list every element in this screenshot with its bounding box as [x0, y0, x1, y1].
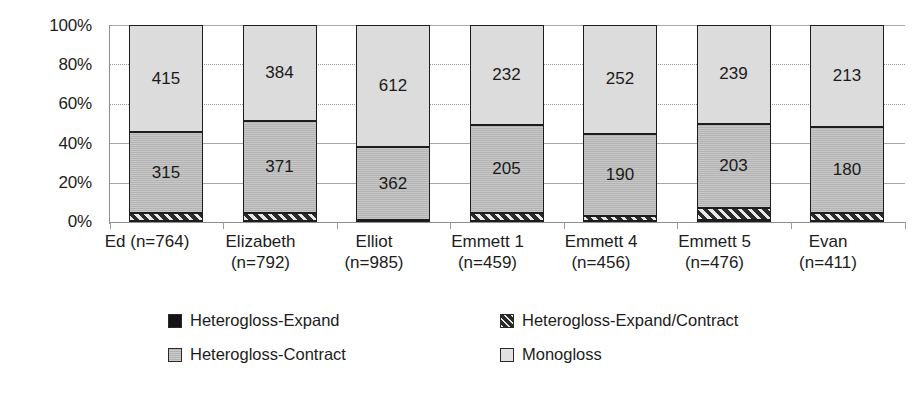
x-axis-category-label: Elizabeth(n=792) — [204, 231, 317, 273]
segment-monogloss: 239 — [697, 25, 771, 124]
x-axis-category-label: Ed (n=764) — [91, 231, 204, 252]
segment-value-label: 415 — [152, 69, 180, 89]
legend-label-monogloss: Monogloss — [522, 345, 602, 364]
legend-label-heterogloss-expand-contract: Heterogloss-Expand/Contract — [522, 311, 738, 330]
segment-monogloss: 612 — [356, 25, 430, 147]
legend-label-heterogloss-expand: Heterogloss-Expand — [190, 311, 340, 330]
segment-value-label: 180 — [833, 160, 861, 180]
x-axis-category-label: Emmett 5(n=476) — [658, 231, 771, 273]
x-tick-0 — [110, 222, 111, 229]
segment-value-label: 384 — [265, 63, 293, 83]
segment-value-label: 213 — [833, 66, 861, 86]
x-axis-category-label: Emmett 1(n=459) — [431, 231, 544, 273]
legend-swatch-hatch-icon — [500, 314, 514, 328]
segment-heterogloss-contract: 205 — [470, 125, 544, 213]
x-axis-category-line: Elizabeth — [204, 231, 317, 252]
segment-heterogloss-expand-contract — [470, 213, 544, 221]
bar-group: 371384 — [243, 25, 317, 222]
y-tick-label-60: 60% — [14, 94, 92, 114]
segment-heterogloss-contract: 362 — [356, 147, 430, 219]
x-axis-labels: Ed (n=764)Elizabeth(n=792)Elliot(n=985)E… — [110, 231, 905, 291]
x-axis-category-line: (n=459) — [431, 252, 544, 273]
x-axis-category-line: (n=476) — [658, 252, 771, 273]
segment-value-label: 362 — [379, 174, 407, 194]
x-axis-category-line: Emmett 5 — [658, 231, 771, 252]
y-tick-label-100: 100% — [14, 16, 92, 36]
y-tick-label-20: 20% — [14, 173, 92, 193]
x-tick-5 — [677, 222, 678, 229]
segment-heterogloss-expand-contract — [243, 213, 317, 221]
legend-item-heterogloss-contract[interactable]: Heterogloss-Contract — [168, 345, 346, 364]
bar-group: 203239 — [697, 25, 771, 222]
x-axis-category-line: Emmett 1 — [431, 231, 544, 252]
x-axis-category-label: Elliot(n=985) — [318, 231, 431, 273]
segment-monogloss: 213 — [810, 25, 884, 127]
y-tick-label-40: 40% — [14, 134, 92, 154]
x-axis-category-line: Emmett 4 — [545, 231, 658, 252]
x-axis-category-line: Elliot — [318, 231, 431, 252]
segment-monogloss: 384 — [243, 25, 317, 121]
x-axis-line — [110, 222, 906, 223]
x-axis-category-line: Ed (n=764) — [91, 231, 204, 252]
x-axis-category-line: Evan — [772, 231, 885, 252]
segment-heterogloss-expand-contract — [697, 208, 771, 220]
segment-heterogloss-expand — [356, 220, 430, 222]
legend-label-heterogloss-contract: Heterogloss-Contract — [190, 345, 346, 364]
y-tick-label-80: 80% — [14, 55, 92, 75]
bar-group: 315415 — [129, 25, 203, 222]
x-axis-category-label: Emmett 4(n=456) — [545, 231, 658, 273]
legend-swatch-light-icon — [500, 348, 514, 362]
x-tick-6 — [791, 222, 792, 229]
y-axis: 100% 80% 60% 40% 20% 0% — [14, 0, 94, 403]
x-tick-4 — [564, 222, 565, 229]
stacked-bar-chart: 100% 80% 60% 40% 20% 0% 3154153713843626… — [0, 0, 919, 403]
chart-legend: Heterogloss-Expand Heterogloss-Expand/Co… — [168, 311, 778, 371]
segment-heterogloss-contract: 315 — [129, 132, 203, 213]
legend-item-monogloss[interactable]: Monogloss — [500, 345, 602, 364]
segment-monogloss: 415 — [129, 25, 203, 132]
x-tick-2 — [337, 222, 338, 229]
legend-swatch-gray-icon — [168, 348, 182, 362]
x-tick-3 — [450, 222, 451, 229]
segment-value-label: 203 — [719, 156, 747, 176]
bar-group: 362612 — [356, 25, 430, 222]
segment-heterogloss-contract: 371 — [243, 121, 317, 213]
segment-heterogloss-contract: 180 — [810, 127, 884, 213]
segment-monogloss: 232 — [470, 25, 544, 125]
segment-value-label: 315 — [152, 163, 180, 183]
segment-heterogloss-expand-contract — [810, 213, 884, 220]
legend-item-heterogloss-expand[interactable]: Heterogloss-Expand — [168, 311, 340, 330]
segment-monogloss: 252 — [583, 25, 657, 134]
x-tick-7 — [905, 222, 906, 229]
x-tick-1 — [223, 222, 224, 229]
segment-heterogloss-contract: 190 — [583, 134, 657, 216]
x-axis-category-line: (n=411) — [772, 252, 885, 273]
bar-group: 205232 — [470, 25, 544, 222]
segment-value-label: 232 — [492, 65, 520, 85]
segment-heterogloss-contract: 203 — [697, 124, 771, 208]
segment-value-label: 190 — [606, 165, 634, 185]
segment-value-label: 371 — [265, 157, 293, 177]
y-tick-label-0: 0% — [14, 212, 92, 232]
legend-item-heterogloss-expand-contract[interactable]: Heterogloss-Expand/Contract — [500, 311, 738, 330]
legend-swatch-black-icon — [168, 314, 182, 328]
segment-value-label: 612 — [379, 76, 407, 96]
segment-heterogloss-expand-contract — [583, 216, 657, 221]
x-axis-category-line: (n=985) — [318, 252, 431, 273]
segment-value-label: 239 — [719, 64, 747, 84]
segment-heterogloss-expand-contract — [129, 213, 203, 220]
bar-group: 180213 — [810, 25, 884, 222]
x-axis-category-line: (n=456) — [545, 252, 658, 273]
bar-group: 190252 — [583, 25, 657, 222]
segment-value-label: 252 — [606, 69, 634, 89]
x-axis-category-label: Evan(n=411) — [772, 231, 885, 273]
x-axis-category-line: (n=792) — [204, 252, 317, 273]
segment-value-label: 205 — [492, 159, 520, 179]
plot-area: 3154153713843626122052321902522032391802… — [110, 25, 905, 222]
